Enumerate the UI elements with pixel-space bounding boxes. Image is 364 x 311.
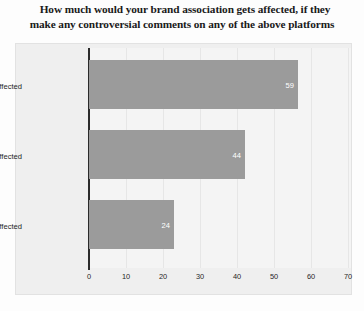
bar-most-affected: 59 bbox=[89, 60, 298, 109]
x-tick-label-20: 20 bbox=[159, 272, 167, 281]
x-tick-label-70: 70 bbox=[344, 272, 352, 281]
chart-title: How much would your brand association ge… bbox=[8, 2, 356, 32]
x-tick-label-50: 50 bbox=[270, 272, 278, 281]
category-label-most-affected: Most affected bbox=[0, 82, 22, 91]
x-tick-label-40: 40 bbox=[233, 272, 241, 281]
x-tick-label-0: 0 bbox=[87, 272, 91, 281]
bar-value-least-affected: 44 bbox=[233, 150, 241, 159]
chart-title-line-1: How much would your brand association ge… bbox=[8, 2, 356, 17]
chart-title-line-2: make any controversial comments on any o… bbox=[8, 17, 356, 32]
x-tick-label-60: 60 bbox=[307, 272, 315, 281]
x-tick-label-10: 10 bbox=[122, 272, 130, 281]
bar-least-affected: 44 bbox=[89, 130, 245, 179]
gridline-60 bbox=[311, 48, 312, 268]
gridline-70 bbox=[348, 48, 349, 268]
chart-page: How much would your brand association ge… bbox=[0, 0, 364, 311]
bar-value-most-affected: 59 bbox=[286, 80, 294, 89]
chart-frame: 59 44 24 0 10 20 30 40 50 60 70 bbox=[15, 43, 352, 295]
category-label-least-affected: Least affected bbox=[0, 152, 22, 161]
category-label-not-at-all-affected: Not at all affected bbox=[0, 222, 22, 231]
bar-not-at-all-affected: 24 bbox=[89, 200, 174, 249]
x-tick-label-30: 30 bbox=[196, 272, 204, 281]
bar-value-not-at-all-affected: 24 bbox=[162, 220, 170, 229]
